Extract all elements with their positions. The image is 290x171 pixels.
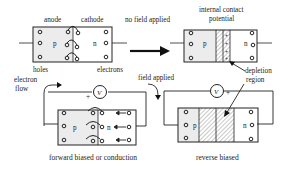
reverse-biased-junction: V + p n reverse biased (164, 84, 273, 162)
svg-text:+: + (225, 40, 228, 46)
unbiased-junction: p n anode cathode holes electrons (19, 16, 127, 74)
p-label: p (203, 40, 207, 48)
voltmeter-label: V (97, 89, 102, 97)
holes-label: holes (33, 66, 48, 74)
reverse-biased-caption: reverse biased (196, 153, 239, 162)
svg-text:+: + (225, 32, 228, 38)
forward-biased-junction: electron flow V + p n forward biased or … (14, 76, 146, 162)
p-label: p (193, 122, 197, 130)
depletion-label: depletion (245, 67, 272, 75)
no-field-label: no field applied (125, 16, 171, 24)
region-label: region (246, 76, 265, 84)
field-applied-label: field applied (138, 74, 175, 82)
electrons-label: electrons (97, 66, 123, 74)
p-label: p (73, 124, 77, 132)
potential-label: potential (209, 15, 234, 23)
n-label: n (244, 40, 248, 48)
transition-arrow-icon (130, 46, 170, 56)
internal-contact-label: internal contact (199, 6, 244, 14)
n-label: n (107, 124, 111, 132)
p-label: p (53, 40, 57, 48)
pn-junction-diagram: p n anode cathode holes electrons no fie… (0, 0, 290, 171)
electron-flow-label: electron (14, 76, 38, 84)
svg-text:+: + (225, 55, 228, 61)
voltmeter-label: V (214, 88, 219, 96)
n-label: n (243, 122, 247, 130)
svg-text:+: + (225, 48, 228, 54)
flow-label: flow (15, 85, 29, 93)
equilibrium-junction: ++++ p n internal contact potential depl… (170, 6, 272, 84)
cathode-label: cathode (81, 16, 103, 24)
plus-label: + (226, 89, 230, 97)
forward-biased-caption: forward biased or conduction (49, 153, 137, 162)
plus-label: + (86, 93, 90, 101)
anode-label: anode (44, 16, 61, 24)
n-label: n (93, 40, 97, 48)
